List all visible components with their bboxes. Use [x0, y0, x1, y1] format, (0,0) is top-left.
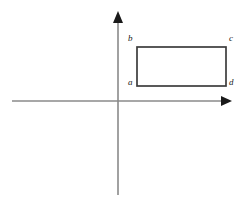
rectangle-shape	[137, 47, 226, 86]
y-axis-arrowhead	[113, 11, 123, 23]
vertex-label-c: c	[229, 34, 233, 43]
x-axis-arrowhead	[221, 96, 232, 106]
geometry-figure	[0, 0, 243, 202]
figure-canvas: b c a d	[0, 0, 243, 202]
vertex-label-d: d	[229, 78, 234, 87]
vertex-label-b: b	[128, 34, 133, 43]
vertex-label-a: a	[128, 78, 133, 87]
